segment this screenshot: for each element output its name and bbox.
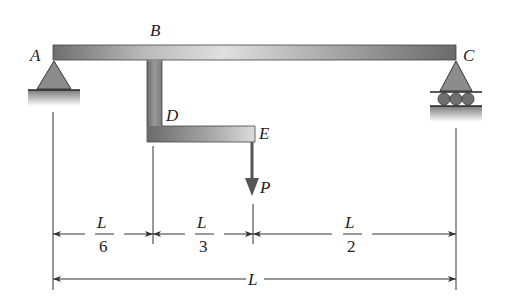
dim-l-over-2: L 2 (343, 213, 362, 256)
dim-l-over-3: L 3 (195, 213, 214, 256)
load-p-arrow (245, 142, 259, 196)
label-c: C (463, 46, 475, 65)
svg-text:L: L (96, 213, 106, 232)
svg-text:L: L (196, 213, 206, 232)
label-p: P (259, 178, 270, 197)
beam-ac (53, 45, 456, 60)
roller-support-c (430, 61, 482, 122)
svg-text:3: 3 (199, 237, 208, 256)
dim-total-label: L (247, 270, 257, 289)
dimension-total: L (53, 270, 456, 289)
svg-text:6: 6 (99, 237, 108, 256)
svg-text:2: 2 (347, 237, 356, 256)
label-b: B (150, 21, 161, 40)
pin-support-a (28, 61, 80, 106)
svg-text:L: L (344, 213, 354, 232)
label-d: D (165, 106, 179, 125)
member-de (147, 126, 255, 142)
beam-diagram: A B C D E P L 6 L 3 L 2 L (0, 0, 510, 308)
label-e: E (258, 124, 270, 143)
dim-l-over-6: L 6 (95, 213, 114, 256)
label-a: A (29, 46, 41, 65)
